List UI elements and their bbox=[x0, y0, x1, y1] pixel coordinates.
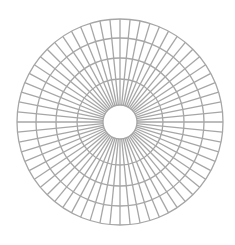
ring-circle bbox=[103, 105, 137, 139]
spokes-group bbox=[17, 19, 223, 225]
radial-grid-diagram bbox=[0, 0, 235, 245]
